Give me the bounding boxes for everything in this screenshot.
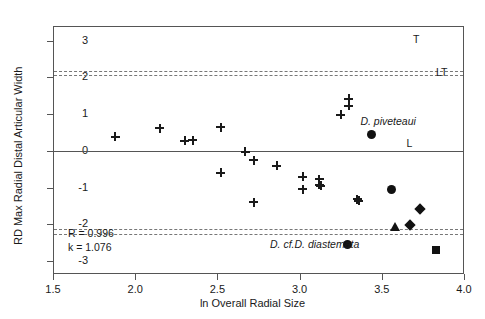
annot-L: L [406,138,412,149]
data-point-plus [249,156,258,165]
data-point-plus [249,198,258,207]
data-point-plus [188,136,197,145]
x-tick-label-2.5: 2.5 [197,284,237,295]
annot-diastemata: D. cf.D. diastemata [270,239,359,250]
y-tick-label-3: 3 [52,35,88,46]
scatter-plot-figure: RD Max Radial Distal Articular Width ln … [0,0,485,319]
data-point-plus [241,147,250,156]
data-point-plus [336,110,345,119]
data-point-plus [298,172,307,181]
data-point-plus [111,132,120,141]
x-tick-3.5 [382,274,383,280]
x-tick-1.5 [53,274,54,280]
x-tick-label-1.5: 1.5 [33,284,73,295]
data-point-plus [155,124,164,133]
y-tick-label-2: 2 [52,71,88,82]
annot-T: T [413,34,419,45]
data-point-square [432,246,440,254]
data-point-plus [354,196,363,205]
x-tick-label-4.0: 4.0 [444,284,484,295]
y-tick-label--1: -1 [52,182,88,193]
lower-confidence-band-line-upper [54,229,463,230]
y-tick-label-1: 1 [52,108,88,119]
x-tick-label-3.5: 3.5 [362,284,402,295]
upper-confidence-band-line-upper [54,71,463,72]
annot-piveteaui: D. piveteaui [360,116,415,127]
x-axis-title: ln Overall Radial Size [10,297,485,309]
upper-confidence-band-line-lower [54,75,463,76]
stat-k: k = 1.076 [68,241,112,254]
x-tick-3.0 [300,274,301,280]
x-tick-2.0 [135,274,136,280]
data-point-plus [344,101,353,110]
zero-reference-line [54,151,463,152]
x-tick-label-3.0: 3.0 [280,284,320,295]
stat-r: R = 0.996 [68,227,114,240]
x-tick-label-2.0: 2.0 [115,284,155,295]
y-axis-title: RD Max Radial Distal Articular Width [12,67,24,246]
data-point-plus [216,123,225,132]
annot-LT: LT [436,67,447,78]
data-point-plus [298,185,307,194]
data-point-plus [272,161,281,170]
data-point-circle [367,130,376,139]
lower-confidence-band-line-lower [54,234,463,235]
x-tick-2.5 [217,274,218,280]
data-point-plus [316,181,325,190]
data-point-triangle [390,222,400,231]
y-tick-label--3: -3 [52,255,88,266]
x-tick-4.0 [464,274,465,280]
data-point-plus [216,168,225,177]
